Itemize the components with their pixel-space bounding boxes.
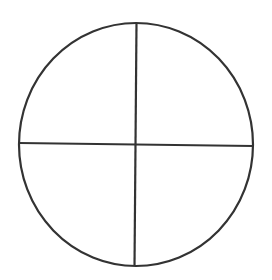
horizontal-divider-line	[19, 143, 253, 146]
circle-quadrant-diagram	[0, 0, 272, 280]
